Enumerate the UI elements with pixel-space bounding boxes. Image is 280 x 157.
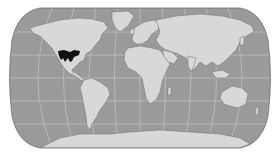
japan [240,36,244,46]
madagascar [168,86,171,96]
world-map [0,0,280,157]
